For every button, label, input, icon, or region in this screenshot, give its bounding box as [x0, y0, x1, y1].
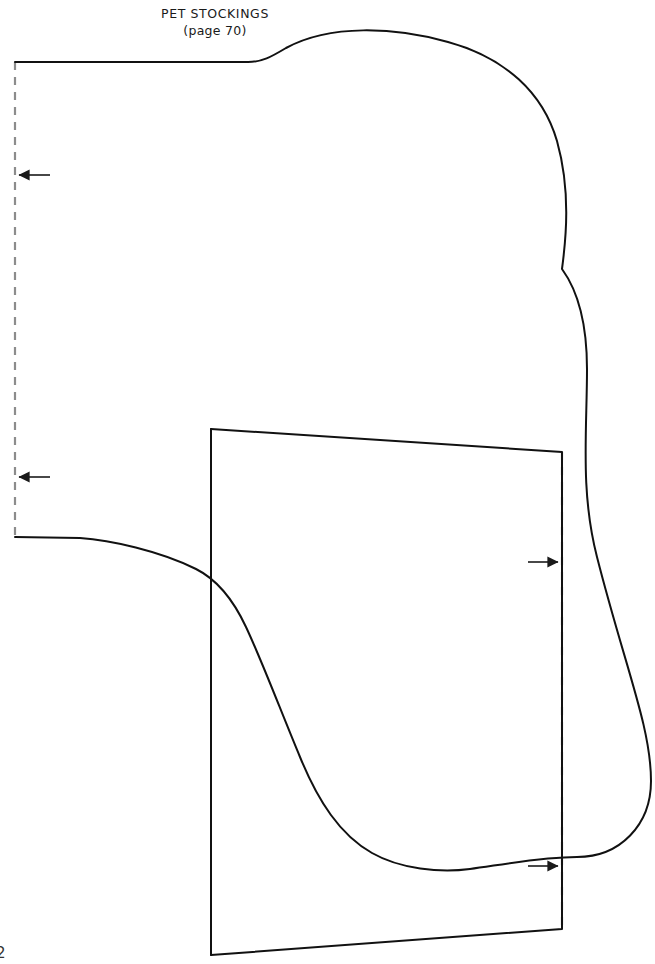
pattern-drawing	[0, 0, 655, 964]
pattern-sheet: PET STOCKINGS (page 70) 2	[0, 0, 655, 964]
stocking-cuff-cut-line	[211, 429, 562, 955]
stocking-body-cut-line	[15, 30, 651, 870]
sheet-corner-number: 2	[0, 944, 6, 962]
fold-arrow-group	[19, 175, 558, 866]
stocking-body-piece	[15, 30, 651, 870]
stocking-cuff-piece	[211, 429, 562, 955]
fold-line-group	[15, 62, 562, 929]
